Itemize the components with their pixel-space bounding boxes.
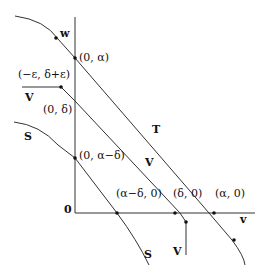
label-S-bottom: S — [144, 248, 152, 261]
label-S-left: S — [24, 130, 32, 143]
label-0-alpha: (0, α) — [79, 51, 109, 64]
point-end-V — [184, 220, 188, 224]
label-delta-0: (δ, 0) — [173, 187, 202, 200]
point-eps — [59, 85, 63, 89]
label-V-diag: V — [144, 156, 154, 169]
w-T-curve — [15, 16, 245, 265]
point-w — [54, 36, 58, 40]
label-v: v — [239, 213, 247, 226]
label-w: w — [59, 27, 70, 40]
label-alpha-0: (α, 0) — [215, 187, 245, 200]
point-alpha-minus-delta-0 — [115, 211, 119, 215]
label-0-delta: (0, δ) — [43, 103, 72, 116]
label-eps: (−ε, δ+ε) — [18, 68, 70, 81]
label-origin: 0 — [64, 203, 72, 216]
label-0-alpha-minus-delta: (0, α−δ) — [79, 149, 125, 162]
label-T: T — [152, 123, 161, 136]
diagram-canvas: w (0, α) (−ε, δ+ε) V (0, δ) T S (0, α−δ)… — [0, 0, 269, 279]
label-V-upper: V — [24, 91, 34, 104]
point-0-alpha — [73, 56, 77, 60]
point-delta-0 — [173, 211, 177, 215]
label-V-bottom: V — [172, 245, 182, 258]
label-alpha-minus-delta-0: (α−δ, 0) — [116, 187, 162, 200]
point-alpha-0 — [212, 211, 216, 215]
point-v — [232, 238, 236, 242]
point-0-alpha-minus-delta — [73, 156, 77, 160]
